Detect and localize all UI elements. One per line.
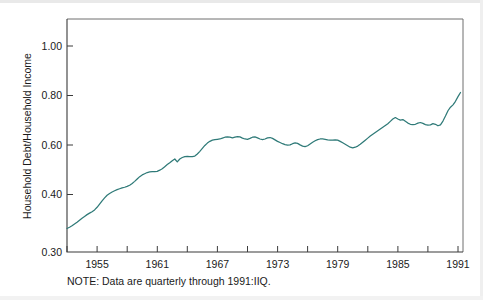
plot-frame-top-right — [67, 19, 463, 252]
y-tick-label-4: 0.40 — [42, 188, 63, 200]
x-tick-label-1973: 1973 — [266, 258, 290, 270]
y-tick-label-2: 0.80 — [42, 89, 63, 101]
x-tick-label-1967: 1967 — [206, 258, 230, 270]
y-tick-label-1: 1.00 — [42, 40, 63, 52]
x-tick-label-1991: 1991 — [446, 258, 470, 270]
y-tick-label-3: 0.60 — [42, 139, 63, 151]
x-tick-label-1979: 1979 — [326, 258, 350, 270]
plot-axes — [67, 19, 463, 252]
chart-figure: 1.00 0.80 0.60 0.40 0.30 1955 1961 1967 … — [0, 0, 483, 300]
x-axis-ticks — [67, 246, 458, 252]
x-tick-label-1985: 1985 — [386, 258, 410, 270]
x-tick-label-1961: 1961 — [146, 258, 170, 270]
x-tick-label-1955: 1955 — [85, 258, 109, 270]
data-series-line — [67, 93, 461, 229]
line-chart-plot: 1.00 0.80 0.60 0.40 0.30 1955 1961 1967 … — [0, 0, 483, 300]
y-tick-label-5: 0.30 — [42, 246, 63, 258]
y-axis-title: Household Debt/Household Income — [21, 53, 33, 219]
y-axis-ticks — [67, 46, 73, 195]
chart-note: NOTE: Data are quarterly through 1991:II… — [67, 275, 271, 287]
